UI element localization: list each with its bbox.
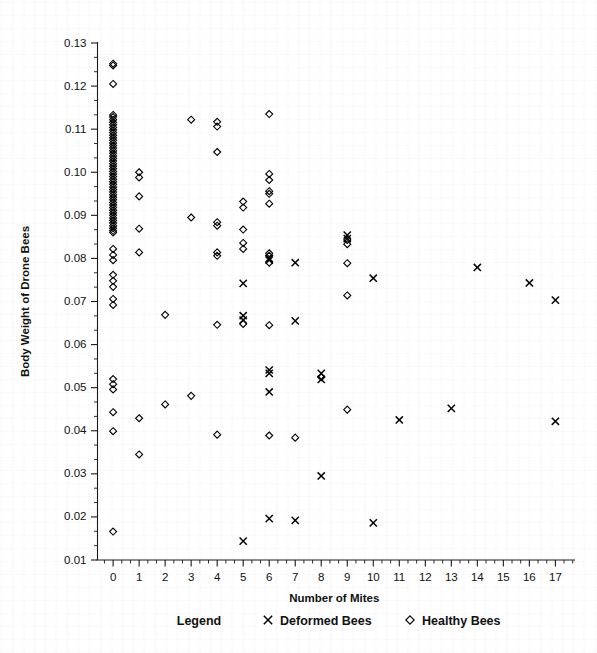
data-point-healthy bbox=[110, 225, 117, 232]
x-tick-label: 8 bbox=[318, 571, 324, 583]
data-point-healthy bbox=[110, 212, 117, 219]
data-point-healthy bbox=[110, 127, 117, 134]
data-point-healthy bbox=[136, 225, 143, 232]
y-tick-label: 0.09 bbox=[64, 209, 86, 221]
data-point-healthy bbox=[110, 152, 117, 159]
x-axis: 01234567891011121314151617 bbox=[97, 560, 576, 583]
data-point-deformed bbox=[292, 317, 299, 324]
data-point-healthy bbox=[110, 176, 117, 183]
data-point-deformed bbox=[318, 376, 325, 383]
y-tick-label: 0.01 bbox=[64, 554, 86, 566]
data-point-deformed bbox=[552, 418, 559, 425]
data-point-healthy bbox=[266, 322, 273, 329]
data-point-healthy bbox=[240, 226, 247, 233]
y-axis-title: Body Weight of Drone Bees bbox=[19, 226, 31, 377]
data-point-healthy bbox=[110, 121, 117, 128]
data-point-healthy bbox=[110, 142, 117, 149]
x-tick-label: 3 bbox=[188, 571, 194, 583]
x-axis-title: Number of Mites bbox=[289, 592, 379, 604]
data-point-healthy bbox=[110, 528, 117, 535]
data-point-deformed bbox=[292, 259, 299, 266]
data-point-healthy bbox=[110, 147, 117, 154]
y-tick-label: 0.02 bbox=[64, 510, 86, 522]
x-tick-label: 11 bbox=[393, 571, 405, 583]
data-point-deformed bbox=[474, 264, 481, 271]
data-point-healthy bbox=[110, 220, 117, 227]
plot-canvas: 0.010.020.030.040.050.060.070.080.090.10… bbox=[0, 0, 597, 653]
data-point-healthy bbox=[110, 381, 117, 388]
data-point-healthy bbox=[266, 200, 273, 207]
x-tick-label: 7 bbox=[292, 571, 298, 583]
data-point-healthy bbox=[110, 199, 117, 206]
data-point-deformed bbox=[552, 297, 559, 304]
data-point-deformed bbox=[266, 388, 273, 395]
data-point-healthy bbox=[110, 80, 117, 87]
x-tick-label: 4 bbox=[214, 571, 221, 583]
data-point-healthy bbox=[110, 209, 117, 216]
x-tick-label: 15 bbox=[497, 571, 510, 583]
y-tick-label: 0.13 bbox=[64, 37, 86, 49]
data-point-healthy bbox=[110, 165, 117, 172]
data-point-healthy bbox=[214, 149, 221, 156]
data-point-healthy bbox=[266, 188, 273, 195]
series-healthy-bees bbox=[110, 60, 351, 535]
y-tick-label: 0.04 bbox=[64, 424, 87, 436]
data-point-healthy bbox=[110, 160, 117, 167]
y-tick-label: 0.06 bbox=[64, 338, 86, 350]
data-point-healthy bbox=[266, 190, 273, 197]
data-point-healthy bbox=[110, 201, 117, 208]
y-tick-label: 0.03 bbox=[64, 467, 86, 479]
data-point-deformed bbox=[448, 405, 455, 412]
data-point-deformed bbox=[240, 537, 247, 544]
data-point-healthy bbox=[136, 415, 143, 422]
data-point-healthy bbox=[292, 434, 299, 441]
data-point-healthy bbox=[110, 376, 117, 383]
data-point-healthy bbox=[110, 134, 117, 141]
y-tick-label: 0.10 bbox=[64, 166, 86, 178]
data-point-healthy bbox=[266, 111, 273, 118]
data-point-healthy bbox=[188, 116, 195, 123]
y-tick-label: 0.11 bbox=[65, 123, 87, 135]
x-tick-label: 5 bbox=[240, 571, 246, 583]
data-point-healthy bbox=[110, 196, 117, 203]
x-tick-label: 1 bbox=[136, 571, 142, 583]
x-tick-label: 12 bbox=[419, 571, 432, 583]
scatter-plot-figure: 0.010.020.030.040.050.060.070.080.090.10… bbox=[0, 0, 597, 653]
legend: LegendDeformed BeesHealthy Bees bbox=[177, 614, 501, 628]
data-point-deformed bbox=[264, 616, 272, 624]
data-point-healthy bbox=[110, 168, 117, 175]
data-point-healthy bbox=[214, 431, 221, 438]
data-point-healthy bbox=[110, 428, 117, 435]
x-tick-label: 2 bbox=[162, 571, 168, 583]
data-point-healthy bbox=[406, 616, 414, 624]
data-point-deformed bbox=[370, 275, 377, 282]
data-point-healthy bbox=[136, 193, 143, 200]
data-point-healthy bbox=[110, 170, 117, 177]
y-tick-label: 0.08 bbox=[64, 252, 86, 264]
data-point-healthy bbox=[110, 257, 117, 264]
data-point-deformed bbox=[318, 472, 325, 479]
data-point-healthy bbox=[136, 174, 143, 181]
data-point-healthy bbox=[110, 173, 117, 180]
data-point-healthy bbox=[188, 214, 195, 221]
data-point-healthy bbox=[110, 150, 117, 157]
data-point-healthy bbox=[110, 207, 117, 214]
x-tick-label: 6 bbox=[266, 571, 272, 583]
x-tick-label: 9 bbox=[344, 571, 350, 583]
data-point-healthy bbox=[110, 189, 117, 196]
data-point-healthy bbox=[344, 292, 351, 299]
data-point-healthy bbox=[110, 217, 117, 224]
data-point-healthy bbox=[110, 183, 117, 190]
data-point-deformed bbox=[266, 515, 273, 522]
data-point-healthy bbox=[136, 169, 143, 176]
x-tick-label: 0 bbox=[110, 571, 116, 583]
data-point-healthy bbox=[188, 392, 195, 399]
data-point-healthy bbox=[214, 321, 221, 328]
x-tick-label: 16 bbox=[523, 571, 536, 583]
data-point-healthy bbox=[110, 119, 117, 126]
data-point-healthy bbox=[162, 311, 169, 318]
data-point-healthy bbox=[110, 139, 117, 146]
data-point-healthy bbox=[110, 409, 117, 416]
data-point-healthy bbox=[110, 181, 117, 188]
y-tick-label: 0.07 bbox=[64, 295, 86, 307]
